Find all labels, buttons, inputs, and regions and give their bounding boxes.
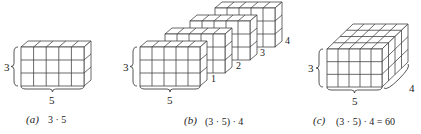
- depth-label-c: 4: [409, 82, 415, 94]
- caption-label-b: (b): [184, 114, 197, 127]
- panel-c-full-prism: [316, 24, 409, 93]
- expression-c: (3 · 5) · 4 = 60: [336, 116, 395, 128]
- layer-label-1: 1: [211, 73, 216, 84]
- layer-label-3: 3: [260, 47, 265, 58]
- panel-a-single-layer-block: [11, 41, 91, 92]
- width-label-c: 5: [352, 95, 358, 107]
- height-label-b: 3: [123, 61, 129, 73]
- height-label-c: 3: [308, 62, 314, 74]
- associative-multiplication-figure: 3 5 (a) 3 · 5 3 5 1 2 3 4 (b) (3 · 5) · …: [0, 0, 421, 134]
- caption-label-c: (c): [313, 114, 326, 127]
- layer-label-2: 2: [236, 60, 241, 71]
- expression-b: (3 · 5) · 4: [205, 116, 243, 128]
- width-label-a: 5: [49, 94, 55, 106]
- layer-label-4: 4: [285, 35, 290, 46]
- height-label-a: 3: [4, 61, 10, 73]
- width-label-b: 5: [167, 94, 173, 106]
- expression-a: 3 · 5: [48, 114, 66, 125]
- caption-label-a: (a): [26, 113, 39, 126]
